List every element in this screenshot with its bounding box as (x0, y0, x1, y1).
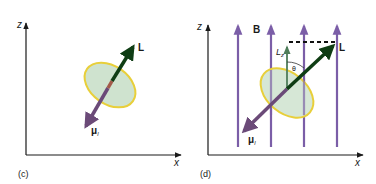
panel-d-caption: (d) (200, 169, 211, 179)
z-axis-label: z (16, 19, 22, 30)
panel-c-caption: (c) (18, 169, 29, 179)
angular-momentum-label: L (339, 42, 345, 53)
magnetic-moment-label: μl (248, 134, 256, 146)
panel-d: z x B Lz θ L μl (d) (196, 21, 363, 179)
magnetic-moment-label: μl (91, 125, 99, 137)
z-axis-label: z (196, 21, 202, 32)
field-label: B (253, 24, 260, 35)
mu-subscript: l (254, 140, 256, 146)
x-axis-label: x (354, 157, 361, 168)
angular-momentum-label: L (138, 42, 144, 53)
z-component-label: Lz (276, 47, 284, 58)
mu-subscript: l (97, 131, 99, 137)
lz-subscript: z (280, 52, 284, 58)
diagram-canvas: z x L μl (c) z x B (0, 0, 376, 184)
angle-label: θ (292, 65, 296, 72)
x-axis-label: x (173, 157, 180, 168)
panel-c: z x L μl (c) (16, 19, 181, 179)
